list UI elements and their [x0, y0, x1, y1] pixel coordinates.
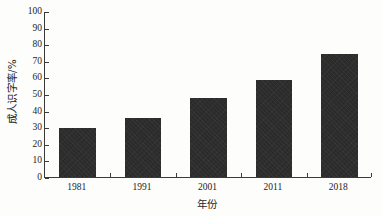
- bar: [321, 54, 358, 177]
- bar: [59, 128, 96, 177]
- y-axis-tick-labels: 0102030405060708090100: [18, 12, 42, 178]
- bar-series: [45, 12, 371, 177]
- y-tick-label: 50: [18, 90, 42, 100]
- x-tick-label: 2018: [329, 182, 348, 193]
- bar: [190, 98, 227, 177]
- y-tick-label: 40: [18, 107, 42, 117]
- y-axis-title-text: 成人识字率/%: [4, 59, 19, 124]
- y-tick-label: 0: [18, 173, 42, 183]
- y-tick-label: 20: [18, 140, 42, 150]
- x-axis-tick-labels: 19811991200120112018: [44, 182, 371, 196]
- y-tick-mark: [45, 178, 49, 179]
- y-tick-label: 70: [18, 57, 42, 67]
- x-axis-title: 年份: [44, 196, 371, 211]
- x-tick-label: 2011: [264, 182, 283, 193]
- bar: [256, 80, 293, 177]
- y-tick-label: 10: [18, 157, 42, 167]
- x-tick-mark: [371, 173, 372, 177]
- y-tick-label: 60: [18, 74, 42, 84]
- y-tick-label: 80: [18, 40, 42, 50]
- y-tick-label: 30: [18, 123, 42, 133]
- x-tick-label: 1981: [67, 182, 86, 193]
- bar-chart-figure: 成人识字率/% 0102030405060708090100 198119912…: [0, 0, 382, 216]
- plot-area: [44, 12, 371, 178]
- x-tick-label: 2001: [198, 182, 217, 193]
- x-tick-label: 1991: [133, 182, 152, 193]
- bar: [125, 118, 162, 177]
- y-tick-label: 100: [18, 7, 42, 17]
- y-tick-label: 90: [18, 24, 42, 34]
